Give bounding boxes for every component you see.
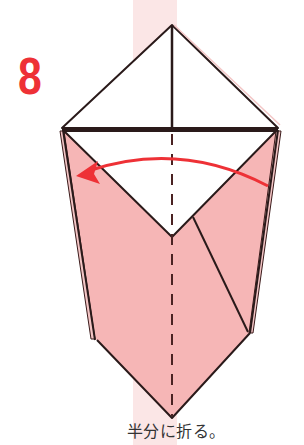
origami-diagram	[0, 0, 304, 445]
step-instruction: 半分に折る。	[0, 418, 304, 442]
paper-top-flap	[62, 25, 278, 128]
